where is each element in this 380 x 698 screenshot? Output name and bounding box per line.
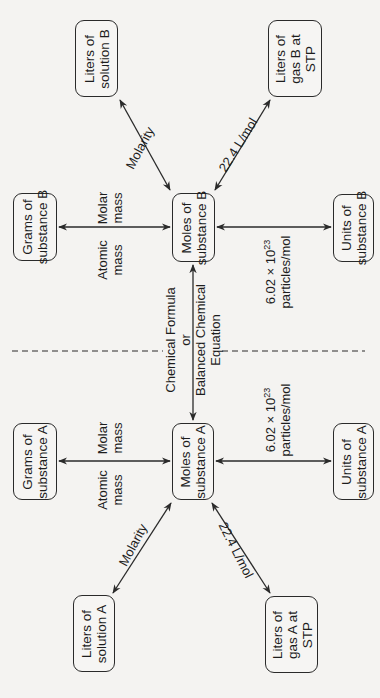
- label-avogadro-a: 6.02 × 1023particles/mol: [263, 384, 293, 457]
- box-liters-gas-b: Liters ofgas B atSTP: [268, 20, 322, 97]
- box-moles-a: Moles ofsubstance A: [172, 423, 214, 500]
- box-label: solution A: [94, 604, 109, 663]
- box-label: STP: [299, 621, 314, 647]
- label-chemical-link: Chemical Formula or Balanced Chemical Eq…: [163, 284, 223, 396]
- box-label: substance A: [354, 425, 369, 499]
- box-label: gas A at: [284, 610, 299, 658]
- box-grams-a: Grams ofsubstance A: [13, 423, 57, 500]
- box-label: Moles of: [179, 202, 194, 253]
- label-molar-mass-b: Molarmass: [95, 192, 125, 225]
- box-liters-solution-a: Liters ofsolution A: [73, 595, 115, 672]
- box-label: Liters of: [269, 610, 284, 658]
- box-liters-solution-b: Liters ofsolution B: [75, 20, 118, 97]
- box-grams-b: Grams ofsubstance B: [13, 193, 57, 261]
- box-label: substance B: [35, 190, 50, 264]
- box-units-a: Units ofsubstance A: [333, 423, 374, 500]
- box-label: Units of: [339, 439, 354, 485]
- box-label: Grams of: [20, 199, 35, 255]
- box-label: Liters of: [79, 609, 94, 657]
- box-label: Grams of: [20, 434, 35, 490]
- box-label: solution B: [97, 29, 112, 88]
- label-atomic-mass-b: Atomicmass: [95, 240, 125, 280]
- box-label: STP: [303, 45, 318, 71]
- box-label: substance A: [35, 425, 50, 499]
- box-label: substance A: [193, 425, 208, 499]
- box-label: Moles of: [178, 436, 193, 487]
- label-molar-mass-a: Molarmass: [95, 422, 125, 455]
- box-label: Liters of: [273, 34, 288, 82]
- box-label: gas B at: [288, 34, 303, 84]
- box-label: Liters of: [82, 34, 97, 82]
- label-atomic-mass-a: Atomicmass: [95, 470, 125, 510]
- box-units-b: Units ofsubstance B: [333, 194, 374, 262]
- label-avogadro-b: 6.02 × 1023particles/mol: [263, 236, 293, 309]
- box-label: substance B: [194, 190, 209, 264]
- box-moles-b: Moles ofsubstance B: [172, 193, 215, 262]
- box-label: substance B: [354, 191, 369, 265]
- box-liters-gas-a: Liters ofgas A atSTP: [265, 596, 318, 673]
- box-label: Units of: [339, 205, 354, 251]
